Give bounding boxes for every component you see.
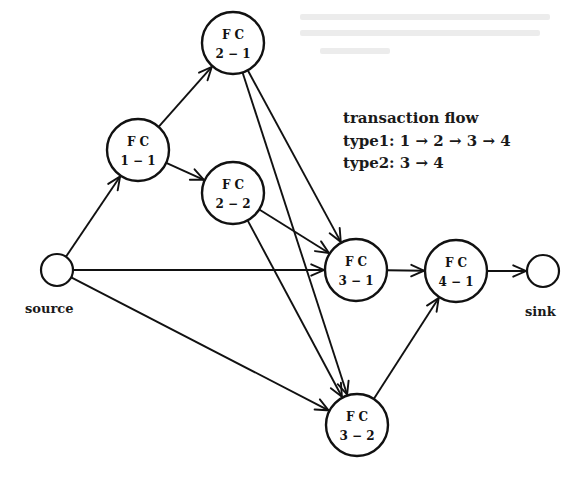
source-circle-icon — [41, 254, 73, 286]
node-label-line1: F C — [222, 178, 244, 192]
legend-type1: type1: 1 → 2 → 3 → 4 — [343, 132, 511, 150]
node-circle — [202, 162, 264, 224]
edge-fc22-to-fc32 — [248, 220, 342, 396]
node-label-line1: F C — [346, 410, 368, 424]
node-source — [41, 254, 73, 286]
legend: transaction flow type1: 1 → 2 → 3 → 4 ty… — [343, 109, 511, 172]
node-label-line2: 2 − 1 — [215, 47, 250, 61]
node-circle — [325, 239, 387, 301]
node-circle — [326, 394, 388, 456]
source-label: source — [25, 301, 73, 316]
node-label-line1: F C — [345, 255, 367, 269]
node-label-line2: 1 − 1 — [120, 154, 155, 168]
node-fc11: F C1 − 1 — [107, 119, 169, 181]
edge-fc11-to-fc21 — [159, 67, 212, 127]
sink-circle-icon — [527, 255, 559, 287]
legend-title: transaction flow — [343, 109, 479, 127]
edge-fc21-to-fc31 — [248, 70, 341, 242]
arrowhead-icon — [108, 177, 120, 191]
arrowhead-icon — [315, 241, 329, 253]
edge-source-to-fc11 — [66, 177, 120, 257]
flow-diagram: F C1 − 1F C2 − 1F C2 − 2F C3 − 1F C3 − 2… — [0, 0, 571, 479]
arrowhead-icon — [427, 298, 439, 312]
edge-fc32-to-fc41 — [374, 298, 439, 399]
edge-source-to-fc32 — [71, 277, 328, 410]
edge-fc41-to-sink — [487, 265, 526, 276]
node-circle — [107, 119, 169, 181]
node-fc32: F C3 − 2 — [326, 394, 388, 456]
sink-label: sink — [525, 304, 557, 319]
legend-type2: type2: 3 → 4 — [343, 154, 444, 172]
node-fc22: F C2 − 2 — [202, 162, 264, 224]
node-fc41: F C4 − 1 — [425, 240, 487, 302]
node-fc31: F C3 − 1 — [325, 239, 387, 301]
edge-fc11-to-fc22 — [166, 163, 204, 180]
node-label-line1: F C — [222, 28, 244, 42]
bleed-through-text — [300, 14, 550, 54]
edge-fc31-to-fc41 — [387, 265, 424, 276]
edge-fc22-to-fc31 — [259, 209, 329, 253]
node-fc21: F C2 − 1 — [202, 12, 264, 74]
node-label-line1: F C — [127, 135, 149, 149]
node-circle — [425, 240, 487, 302]
edge-fc21-to-fc32 — [243, 72, 349, 394]
node-label-line2: 3 − 1 — [338, 274, 373, 288]
node-label-line2: 4 − 1 — [438, 275, 473, 289]
edge-source-to-fc31 — [73, 264, 324, 275]
node-sink — [527, 255, 559, 287]
node-circle — [202, 12, 264, 74]
node-label-line1: F C — [445, 256, 467, 270]
node-label-line2: 2 − 2 — [215, 197, 250, 211]
node-label-line2: 3 − 2 — [339, 429, 374, 443]
